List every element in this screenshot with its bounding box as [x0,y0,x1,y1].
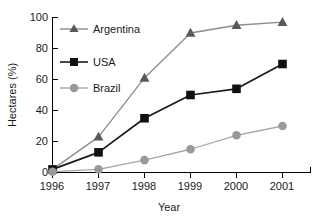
x-tick-label: 2001 [270,180,294,192]
legend-label-usa: USA [93,56,116,68]
circle-marker-icon [48,167,57,176]
legend-label-argentina: Argentina [93,23,141,35]
x-tick-label: 1996 [40,180,64,192]
circle-marker-icon [140,156,149,165]
y-tick-label: 100 [30,11,48,23]
square-marker-icon [94,148,103,157]
circle-marker-icon [70,84,78,92]
x-tick-label: 1999 [178,180,202,192]
chart-canvas: 100 80 60 40 20 0 1996 1997 1998 1999 20… [0,0,332,217]
circle-marker-icon [94,165,103,174]
x-tick-label: 2000 [224,180,248,192]
y-tick-label: 60 [36,73,48,85]
x-tick-label: 1997 [86,180,110,192]
circle-marker-icon [186,145,195,154]
y-tick-label: 40 [36,104,48,116]
x-axis-title: Year [158,201,181,213]
square-marker-icon [70,58,78,66]
square-marker-icon [186,91,195,100]
y-tick-label: 0 [42,166,48,178]
square-marker-icon [140,114,149,123]
y-tick-label: 20 [36,135,48,147]
circle-marker-icon [278,122,287,131]
square-marker-icon [278,60,287,69]
y-axis-title: Hectares (%) [6,63,18,127]
y-tick-label: 80 [36,42,48,54]
circle-marker-icon [232,131,241,140]
square-marker-icon [232,85,241,94]
line-chart-figure: 100 80 60 40 20 0 1996 1997 1998 1999 20… [0,0,332,217]
x-tick-label: 1998 [132,180,156,192]
legend-label-brazil: Brazil [93,82,121,94]
